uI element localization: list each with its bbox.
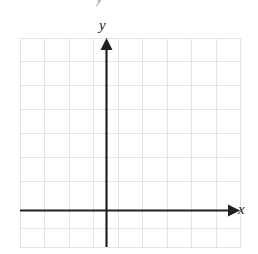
coordinate-plane-figure: y [0,0,258,254]
y-axis-line [101,38,113,247]
y-axis-arrowhead [101,38,113,50]
x-axis-label: x [238,202,245,217]
x-axis-line [20,205,240,217]
clipped-glyph-text: y [96,0,103,6]
grid-and-axes-svg [0,0,258,254]
y-axis-label: y [99,18,106,33]
clipped-glyph-artifact: y [96,0,110,7]
grid-lines [20,38,241,248]
